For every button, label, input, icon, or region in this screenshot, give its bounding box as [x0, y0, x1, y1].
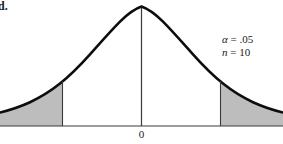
origin-tick-label-wrap: 0 — [0, 128, 283, 141]
parameter-annotations: α = .05 n = 10 — [222, 33, 253, 58]
origin-tick-label: 0 — [139, 128, 145, 140]
n-value: 10 — [239, 46, 250, 58]
sample-size-annotation: n = 10 — [222, 46, 253, 59]
alpha-value: .05 — [240, 33, 254, 45]
distribution-plot — [0, 0, 283, 144]
alpha-annotation: α = .05 — [222, 33, 253, 46]
normal-curve-figure: d. α = .05 n = 10 0 — [0, 0, 283, 144]
alpha-equals: = — [228, 33, 240, 45]
n-equals: = — [228, 46, 240, 58]
